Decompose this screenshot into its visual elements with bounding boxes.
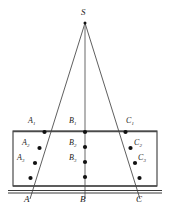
label-b2: B2: [69, 139, 76, 147]
geometry-figure: S A1 A2 A3 B1 B2 B3 C1 C2 C3 A B C: [0, 0, 170, 212]
point-a2-dot: [37, 146, 41, 150]
point-c3-dot: [133, 161, 137, 165]
point-b1-dot: [83, 130, 87, 134]
ray-s-to-a: [30, 23, 85, 199]
ray-s-to-c: [85, 23, 140, 199]
point-a1-dot: [42, 130, 46, 134]
label-a3-subscript: 3: [22, 158, 24, 163]
label-a2: A2: [22, 139, 29, 147]
point-c1-dot: [123, 130, 127, 134]
label-base-c: C: [136, 195, 142, 204]
point-a4-dot: [28, 176, 32, 180]
label-c1: C1: [126, 117, 134, 125]
point-b3-dot: [83, 160, 87, 164]
label-c3-base: C: [138, 153, 143, 162]
label-b3: B3: [69, 154, 76, 162]
label-c2: C2: [134, 139, 142, 147]
point-b4-dot: [83, 175, 87, 179]
label-c3-subscript: 3: [144, 158, 146, 163]
point-c2-dot: [128, 146, 132, 150]
point-c4-dot: [137, 176, 141, 180]
label-b1-subscript: 1: [74, 121, 76, 126]
label-a1: A1: [28, 117, 35, 125]
label-a1-subscript: 1: [33, 121, 35, 126]
figure-canvas: [0, 0, 170, 212]
label-base-a: A: [24, 195, 30, 204]
label-c1-subscript: 1: [132, 121, 134, 126]
apex-point-s: [84, 22, 87, 25]
label-a3: A3: [17, 154, 24, 162]
label-a2-subscript: 2: [27, 143, 29, 148]
label-apex-s: S: [81, 8, 86, 17]
label-c2-base: C: [134, 138, 139, 147]
label-b2-subscript: 2: [74, 143, 76, 148]
label-b3-subscript: 3: [74, 158, 76, 163]
point-b2-dot: [83, 145, 87, 149]
label-c2-subscript: 2: [140, 143, 142, 148]
label-c3: C3: [138, 154, 146, 162]
label-base-b: B: [80, 195, 86, 204]
point-a3-dot: [33, 161, 37, 165]
label-b1: B1: [69, 117, 76, 125]
label-c1-base: C: [126, 116, 131, 125]
